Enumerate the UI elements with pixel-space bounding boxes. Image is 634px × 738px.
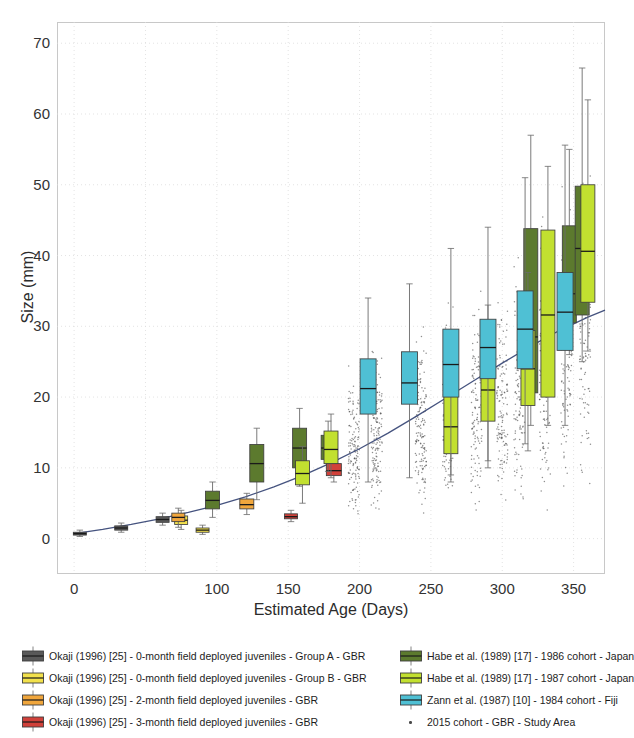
boxplot-swatch-icon xyxy=(398,690,424,710)
boxplot-swatch-icon xyxy=(398,646,424,666)
boxplot xyxy=(156,513,169,525)
legend-item-label: Okaji (1996) [25] - 0-month field deploy… xyxy=(49,651,365,662)
legend-item-label: Okaji (1996) [25] - 0-month field deploy… xyxy=(49,673,366,684)
legend-item-label: Habe et al. (1989) [17] - 1986 cohort - … xyxy=(427,651,634,662)
legend-item-label: Habe et al. (1989) [17] - 1987 cohort - … xyxy=(427,673,634,684)
x-tick-label: 250 xyxy=(401,580,461,597)
x-tick-label: 300 xyxy=(472,580,532,597)
legend-item-label: Okaji (1996) [25] - 3-month field deploy… xyxy=(49,717,318,728)
boxplot xyxy=(401,284,417,478)
boxplot-swatch-icon xyxy=(20,646,46,666)
legend-item[interactable]: Okaji (1996) [25] - 2-month field deploy… xyxy=(20,689,398,711)
scatter-dot-icon xyxy=(398,712,424,732)
y-tick-label: 10 xyxy=(4,459,50,476)
plot-area xyxy=(57,22,605,574)
legend-column-right: Habe et al. (1989) [17] - 1986 cohort - … xyxy=(398,645,630,733)
boxplot xyxy=(285,510,298,521)
x-tick-label: 0 xyxy=(44,580,104,597)
boxplot-swatch-icon xyxy=(398,668,424,688)
boxplot xyxy=(541,166,555,425)
boxplot xyxy=(73,530,86,536)
chart-data-layer xyxy=(57,22,605,574)
boxplot xyxy=(360,298,376,482)
legend-item[interactable]: Habe et al. (1989) [17] - 1986 cohort - … xyxy=(398,645,630,667)
x-axis-label: Estimated Age (Days) xyxy=(57,601,605,619)
boxplot xyxy=(206,482,220,517)
boxplot xyxy=(196,525,209,534)
y-axis-label: Size (mm) xyxy=(19,177,37,397)
boxplot xyxy=(557,145,573,425)
boxplot xyxy=(240,493,254,514)
legend: Okaji (1996) [25] - 0-month field deploy… xyxy=(14,645,612,733)
legend-item[interactable]: Okaji (1996) [25] - 0-month field deploy… xyxy=(20,667,398,689)
x-tick-label: 100 xyxy=(187,580,247,597)
legend-item-label: Zann et al. (1987) [10] - 1984 cohort - … xyxy=(427,695,618,706)
boxplot xyxy=(115,523,128,532)
boxplot-swatch-icon xyxy=(20,690,46,710)
x-tick-label: 200 xyxy=(330,580,390,597)
x-tick-label: 150 xyxy=(258,580,318,597)
legend-item-label: Okaji (1996) [25] - 2-month field deploy… xyxy=(49,695,318,706)
legend-item[interactable]: Habe et al. (1989) [17] - 1987 cohort - … xyxy=(398,667,630,689)
boxplot-swatch-icon xyxy=(20,712,46,732)
x-axis-ticks: 0100150200250300350 xyxy=(57,580,605,602)
legend-item-label: 2015 cohort - GBR - Study Area xyxy=(427,717,575,728)
boxplot xyxy=(480,227,496,461)
y-tick-label: 0 xyxy=(4,530,50,547)
legend-item[interactable]: Okaji (1996) [25] - 3-month field deploy… xyxy=(20,711,398,733)
legend-column-left: Okaji (1996) [25] - 0-month field deploy… xyxy=(20,645,398,733)
x-tick-label: 350 xyxy=(544,580,604,597)
boxplot xyxy=(250,428,264,499)
y-tick-label: 60 xyxy=(4,105,50,122)
dot-mark xyxy=(409,721,412,724)
legend-item[interactable]: 2015 cohort - GBR - Study Area xyxy=(398,711,630,733)
legend-item[interactable]: Okaji (1996) [25] - 0-month field deploy… xyxy=(20,645,398,667)
legend-item[interactable]: Zann et al. (1987) [10] - 1984 cohort - … xyxy=(398,689,630,711)
boxplot-swatch-icon xyxy=(20,668,46,688)
y-tick-label: 70 xyxy=(4,34,50,51)
